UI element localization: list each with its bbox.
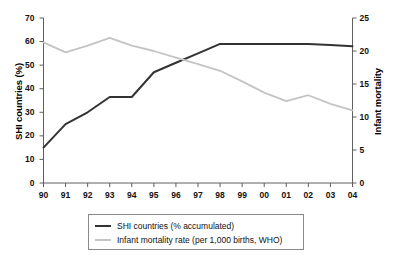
chart-figure: SHI countries (%) Infant mortality 01020… (0, 0, 393, 264)
x-axis-tick: 00 (254, 190, 274, 200)
legend-swatch-shi-countries (95, 225, 111, 227)
y-axis-left-tick: 50 (13, 60, 35, 70)
y-axis-left-tick: 20 (13, 130, 35, 140)
legend-label-infant-mortality: Infant mortality rate (per 1,000 births,… (117, 235, 282, 245)
legend-item: Infant mortality rate (per 1,000 births,… (95, 233, 297, 247)
y-axis-left-tick: 60 (13, 36, 35, 46)
x-axis-tick: 94 (122, 190, 142, 200)
x-axis-tick: 91 (56, 190, 76, 200)
y-axis-right-tick: 20 (360, 46, 382, 56)
legend-swatch-infant-mortality (95, 239, 111, 241)
x-axis-tick: 99 (232, 190, 252, 200)
x-axis-tick: 93 (100, 190, 120, 200)
y-axis-right-tick: 5 (360, 145, 382, 155)
y-axis-left-tick: 10 (13, 154, 35, 164)
y-axis-left-tick: 30 (13, 107, 35, 117)
x-axis-tick: 01 (276, 190, 296, 200)
x-axis-tick: 02 (298, 190, 318, 200)
y-axis-right-tick: 15 (360, 79, 382, 89)
y-axis-right-tick: 25 (360, 13, 382, 23)
chart-series (44, 38, 353, 148)
x-axis-tick: 97 (188, 190, 208, 200)
legend-label-shi-countries: SHI countries (% accumulated) (117, 221, 234, 231)
x-axis-tick: 03 (320, 190, 340, 200)
y-axis-left-tick: 0 (13, 178, 35, 188)
y-axis-right-tick: 10 (360, 112, 382, 122)
y-axis-right-tick: 0 (360, 178, 382, 188)
chart-legend: SHI countries (% accumulated) Infant mor… (88, 214, 304, 250)
x-axis-tick: 90 (34, 190, 54, 200)
legend-item: SHI countries (% accumulated) (95, 219, 297, 233)
y-axis-left-tick: 40 (13, 83, 35, 93)
y-axis-left-tick: 70 (13, 13, 35, 23)
x-axis-tick: 95 (144, 190, 164, 200)
x-axis-tick: 98 (210, 190, 230, 200)
x-axis-tick: 92 (78, 190, 98, 200)
y-axis-right-title: Infant mortality (372, 42, 383, 162)
x-axis-tick: 96 (166, 190, 186, 200)
x-axis-tick: 04 (343, 190, 363, 200)
